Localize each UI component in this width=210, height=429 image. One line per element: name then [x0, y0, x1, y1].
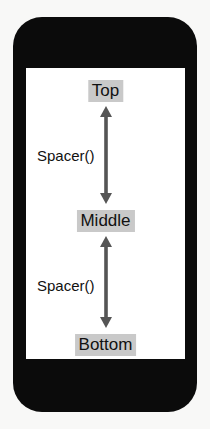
diagram-canvas: Top Spacer() Middle: [0, 0, 210, 429]
spacer-caption-1: Spacer(): [37, 147, 95, 165]
label-middle: Middle: [76, 210, 134, 232]
double-headed-vertical-arrow-icon: [98, 106, 114, 204]
phone-device-frame: Top Spacer() Middle: [13, 17, 197, 412]
double-headed-vertical-arrow-icon: [98, 236, 114, 328]
spacer-caption-2: Spacer(): [37, 277, 95, 295]
spacer-arrow-bottom: [98, 236, 114, 328]
label-top: Top: [88, 80, 123, 102]
spacer-arrow-top: [98, 106, 114, 204]
phone-screen: Top Spacer() Middle: [26, 68, 185, 359]
label-bottom: Bottom: [75, 334, 137, 356]
